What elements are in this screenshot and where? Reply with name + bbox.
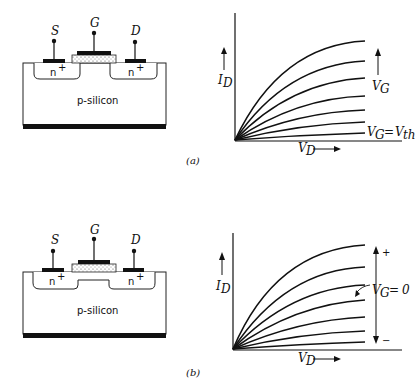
back-contact [23,124,166,129]
svg-text:+: + [382,247,390,258]
chart-b: ID VD + − VG = 0 [215,233,410,368]
svg-text:D: D [130,233,141,247]
svg-text:0: 0 [402,283,410,297]
caption-b: (b) [186,367,200,378]
svg-text:n: n [50,67,56,78]
svg-text:S: S [51,233,59,247]
svg-text:+: + [57,271,65,282]
svg-text:+: + [136,62,144,73]
mosfet-figure: n+ n+ S G D p-silicon ID VD [0,0,418,390]
svg-text:G: G [380,82,390,96]
svg-text:G: G [90,223,100,237]
drain-label: D [130,24,141,38]
caption-a: (a) [186,155,200,166]
substrate-label: p-silicon [77,95,118,106]
svg-text:th: th [403,128,416,142]
svg-text:D: D [220,282,231,296]
svg-text:−: − [382,335,390,346]
source-well [34,63,80,79]
svg-text:+: + [136,271,144,282]
gate-oxide [72,55,116,63]
device-a: n+ n+ S G D p-silicon [23,16,166,129]
svg-text:=: = [389,283,399,297]
svg-text:n: n [128,276,134,287]
source-label: S [51,24,59,38]
svg-text:D: D [305,144,316,158]
gate-label: G [90,16,100,30]
svg-text:D: D [222,76,233,90]
svg-text:n: n [49,276,55,287]
svg-text:=: = [384,125,394,139]
svg-text:+: + [58,62,66,73]
svg-text:p-silicon: p-silicon [77,305,118,316]
device-b: n+ n+ S G D p-silicon [23,223,166,338]
chart-a: ID VD VG VG = Vth [217,13,416,158]
gate-metal [77,51,111,55]
svg-text:D: D [305,354,316,368]
svg-text:n: n [128,67,134,78]
